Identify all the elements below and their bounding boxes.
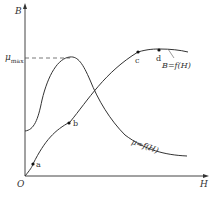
point-c-label: c xyxy=(135,57,139,65)
point-c-marker xyxy=(136,50,139,53)
y-axis-arrow-icon xyxy=(23,3,27,9)
mu-h-curve xyxy=(25,57,187,156)
origin-label: O xyxy=(17,180,24,189)
point-b-marker xyxy=(67,121,70,124)
y-axis-label: B xyxy=(15,7,22,16)
point-a-marker xyxy=(31,162,34,165)
mu-subscript: max xyxy=(11,57,24,64)
point-a-label: a xyxy=(36,161,41,169)
point-d-marker xyxy=(157,48,160,51)
x-axis-arrow-icon xyxy=(203,174,209,178)
point-d-label: d xyxy=(156,55,161,63)
b-curve-leader-line xyxy=(168,49,174,58)
b-curve-label: B=f(H) xyxy=(162,62,191,70)
diagram-canvas xyxy=(0,0,213,197)
x-axis-label: H xyxy=(200,180,208,189)
mu-max-label: μmax xyxy=(5,53,24,64)
point-b-label: b xyxy=(73,120,78,128)
